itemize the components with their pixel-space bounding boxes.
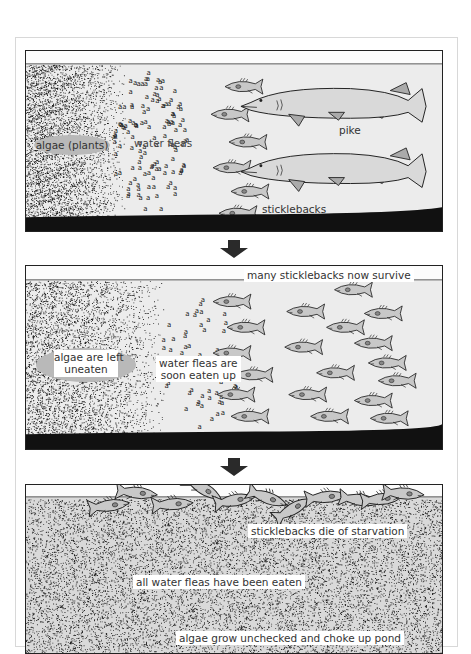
label-sticklebacks: sticklebacks xyxy=(262,203,326,215)
label-algae-uneaten: algae are left uneaten xyxy=(36,348,136,382)
water-flea: a xyxy=(161,102,165,110)
water-flea: a xyxy=(171,119,175,127)
water-flea: a xyxy=(147,169,151,177)
water-flea: a xyxy=(133,175,137,183)
water-flea: a xyxy=(147,123,151,131)
water-flea: a xyxy=(166,183,170,191)
label-water-fleas: water fleas xyxy=(134,137,192,149)
water-flea: a xyxy=(139,194,143,202)
water-flea: a xyxy=(184,405,188,413)
water-flea: a xyxy=(202,326,206,334)
water-flea: a xyxy=(178,121,182,129)
label-pike: pike xyxy=(339,124,361,136)
water-flea: a xyxy=(173,184,177,192)
water-flea: a xyxy=(171,168,175,176)
water-flea: a xyxy=(162,344,166,352)
panel-balanced-pond: aaaaaaaaaaaaaaaaaaaaaaaaaaaaaaaaaaaaaaaa… xyxy=(25,50,443,232)
water-flea: a xyxy=(218,399,222,407)
label-sticklebacks-starve: sticklebacks die of starvation xyxy=(248,524,407,538)
water-flea: a xyxy=(221,409,225,417)
water-flea: a xyxy=(155,192,159,200)
water-flea: a xyxy=(146,75,150,83)
label-fleas-line2: soon eaten up xyxy=(159,369,238,381)
water-flea: a xyxy=(129,77,133,85)
water-flea: a xyxy=(152,183,156,191)
label-algae-choke: algae grow unchecked and choke up pond xyxy=(176,631,404,645)
panel-collapse: sticklebacks die of starvation all water… xyxy=(25,484,443,654)
water-flea: a xyxy=(171,155,175,163)
down-arrow-icon xyxy=(220,458,248,476)
panel-3-illustration xyxy=(26,485,442,653)
water-flea: a xyxy=(113,150,117,158)
water-flea: a xyxy=(184,328,188,336)
water-flea: a xyxy=(114,171,118,179)
water-flea: a xyxy=(118,169,122,177)
water-flea: a xyxy=(134,122,138,130)
water-flea: a xyxy=(142,108,146,116)
water-flea: a xyxy=(207,394,211,402)
water-flea: a xyxy=(143,149,147,157)
water-flea: a xyxy=(164,162,168,170)
water-flea: a xyxy=(128,88,132,96)
water-flea: a xyxy=(118,103,122,111)
label-algae: algae (plants) xyxy=(34,135,110,155)
label-algae-line2: uneaten xyxy=(54,363,118,377)
water-flea: a xyxy=(138,164,142,172)
water-flea: a xyxy=(159,205,163,213)
water-flea: a xyxy=(185,310,189,318)
water-flea: a xyxy=(222,327,226,335)
water-flea: a xyxy=(143,170,147,178)
water-flea: a xyxy=(189,386,193,394)
water-flea: a xyxy=(171,335,175,343)
label-sticklebacks-survive: many sticklebacks now survive xyxy=(244,268,414,282)
label-fleas-eaten: all water fleas have been eaten xyxy=(133,575,305,589)
water-flea: a xyxy=(215,410,219,418)
water-flea: a xyxy=(178,169,182,177)
water-flea: a xyxy=(210,416,214,424)
water-flea: a xyxy=(136,185,140,193)
water-flea: a xyxy=(157,95,161,103)
water-flea: a xyxy=(166,119,170,127)
water-flea: a xyxy=(183,126,187,134)
water-flea: a xyxy=(152,160,156,168)
water-flea: a xyxy=(140,80,144,88)
water-flea: a xyxy=(130,103,134,111)
water-flea: a xyxy=(169,96,173,104)
water-flea: a xyxy=(199,308,203,316)
water-flea: a xyxy=(158,78,162,86)
water-flea: a xyxy=(201,296,205,304)
water-flea: a xyxy=(146,105,150,113)
label-fleas-line1: water fleas are xyxy=(159,357,238,369)
water-flea: a xyxy=(206,316,210,324)
down-arrow-icon xyxy=(220,240,248,258)
water-flea: a xyxy=(184,343,188,351)
water-flea: a xyxy=(222,310,226,318)
water-flea: a xyxy=(143,205,147,213)
water-flea: a xyxy=(151,174,155,182)
water-flea: a xyxy=(176,103,180,111)
water-flea: a xyxy=(130,164,134,172)
water-flea: a xyxy=(171,110,175,118)
label-algae-line1: algae are left xyxy=(54,350,118,363)
water-flea: a xyxy=(118,142,122,150)
water-flea: a xyxy=(122,103,126,111)
water-flea: a xyxy=(200,402,204,410)
water-flea: a xyxy=(127,190,131,198)
label-water-fleas-eaten: water fleas are soon eaten up xyxy=(156,356,241,382)
water-flea: a xyxy=(165,382,169,390)
water-flea: a xyxy=(173,87,177,95)
panel-pike-removed: aaaaaaaaaaaaaaaaaaaaaaaaaaaaaaaaaaaaaaaa… xyxy=(25,265,443,450)
water-flea: a xyxy=(169,346,173,354)
water-flea: a xyxy=(113,132,117,140)
water-flea: a xyxy=(207,387,211,395)
water-flea: a xyxy=(120,121,124,129)
water-flea: a xyxy=(200,392,204,400)
water-flea: a xyxy=(146,194,150,202)
water-flea: a xyxy=(128,117,132,125)
water-flea: a xyxy=(145,93,149,101)
water-flea: a xyxy=(167,321,171,329)
water-flea: a xyxy=(198,423,202,431)
water-flea: a xyxy=(147,183,151,191)
